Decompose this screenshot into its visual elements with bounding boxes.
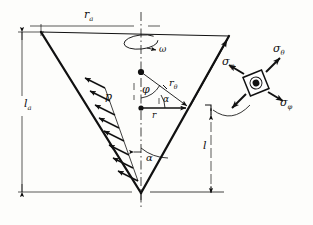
radius-line-r bbox=[138, 105, 186, 110]
label-stress-meridional-wall: σφ bbox=[222, 56, 234, 70]
label-angle-alpha-apex: α bbox=[146, 153, 153, 163]
callout-leader-curve bbox=[213, 105, 250, 116]
label-top-radius: ra bbox=[84, 9, 93, 23]
label-pressure: p bbox=[105, 91, 112, 102]
dimension-line-left-length bbox=[18, 32, 132, 192]
label-angle-alpha-center: α bbox=[163, 95, 169, 104]
diagram-vector-layer bbox=[0, 0, 313, 225]
figure-canvas: ra la l ω p φ α α rθ r σφ σθ σφ bbox=[0, 0, 313, 225]
cone-wall-right-arrow bbox=[190, 40, 227, 106]
label-left-length: la bbox=[24, 98, 32, 112]
stress-element bbox=[243, 70, 269, 96]
label-stress-meridional-element: σφ bbox=[280, 97, 292, 111]
cone-top-rim bbox=[41, 32, 229, 36]
right-angle-marker bbox=[205, 105, 211, 111]
label-angle-phi: φ bbox=[142, 84, 150, 95]
label-stress-hoop: σθ bbox=[273, 43, 285, 57]
label-radius-r: r bbox=[152, 111, 156, 120]
dimension-line-right-arrows bbox=[150, 108, 224, 193]
label-omega: ω bbox=[159, 45, 166, 54]
label-right-length: l bbox=[203, 140, 207, 151]
cone-wall-left bbox=[41, 32, 141, 193]
label-radius-theta: rθ bbox=[169, 78, 178, 90]
